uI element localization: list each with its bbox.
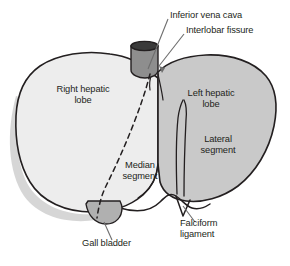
liver-anatomy-figure: Right hepatic lobe Left hepatic lobe Lat… xyxy=(0,0,290,266)
vena-cava-rim xyxy=(131,41,158,50)
liver-illustration xyxy=(0,0,290,266)
inferior-vena-cava-shape xyxy=(131,41,158,78)
left-hepatic-lobe-shape xyxy=(158,55,276,202)
leader-line-gall-bladder xyxy=(104,222,112,240)
